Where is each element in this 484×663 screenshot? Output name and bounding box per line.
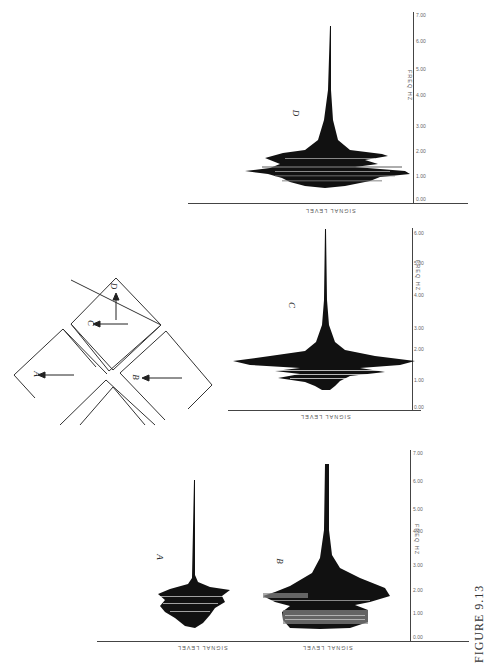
- panel-c-tick: 5.00: [414, 260, 424, 266]
- panel-b-spectrum: [0, 440, 484, 663]
- panel-d-tick: 3.00: [416, 123, 426, 129]
- panel-a-label: A: [155, 554, 165, 560]
- panel-ab-tick: 7.00: [413, 450, 423, 456]
- panel-c-tick: 3.00: [414, 325, 424, 331]
- panel-c-tick: 4.00: [414, 292, 424, 298]
- panel-b-level-title: SIGNAL LEVEL: [302, 645, 353, 651]
- panel-c: C FREQ HZ SIGNAL LEVEL 0.00 1.00 2.00 3.…: [0, 220, 484, 420]
- panel-ab-tick: 3.00: [413, 562, 423, 568]
- panel-d-label: D: [291, 110, 301, 117]
- panel-a-level-title: SIGNAL LEVEL: [177, 645, 228, 651]
- panel-ab-tick: 2.00: [413, 587, 423, 593]
- panel-ab-tick: 1.00: [413, 610, 423, 616]
- panel-d-tick: 0.00: [416, 196, 426, 202]
- panel-d-freq-title: FREQ HZ: [407, 70, 413, 101]
- panel-c-tick: 2.00: [414, 346, 424, 352]
- panel-c-tick: 1.00: [414, 377, 424, 383]
- panel-ab: A B FREQ HZ SIGNAL LEVEL SIGNAL LEVEL 0.…: [0, 440, 484, 663]
- panel-ab-tick: 5.00: [413, 506, 423, 512]
- panel-c-level-title: SIGNAL LEVEL: [300, 414, 351, 420]
- panel-ab-tick: 0.00: [413, 634, 423, 640]
- panel-d-level-title: SIGNAL LEVEL: [305, 208, 356, 214]
- panel-d-tick: 5.00: [416, 66, 426, 72]
- panel-b-label: B: [275, 558, 285, 564]
- panel-c-label: C: [287, 302, 297, 308]
- panel-d-tick: 7.00: [416, 12, 426, 18]
- panel-c-spectrum: [0, 220, 484, 420]
- figure-caption: FIGURE 9.13: [472, 585, 484, 663]
- panel-ab-tick: 4.00: [413, 528, 423, 534]
- panel-d-tick: 4.00: [416, 92, 426, 98]
- panel-d-spectrum: [0, 0, 484, 220]
- panel-ab-tick: 6.00: [413, 478, 423, 484]
- panel-c-tick: 6.00: [414, 230, 424, 236]
- panel-c-tick: 0.00: [414, 404, 424, 410]
- panel-d-tick: 1.00: [416, 173, 426, 179]
- panel-d-tick: 2.00: [416, 148, 426, 154]
- panel-d-tick: 6.00: [416, 38, 426, 44]
- panel-d: D FREQ HZ SIGNAL LEVEL 0.00 1.00 2.00 3.…: [0, 0, 484, 220]
